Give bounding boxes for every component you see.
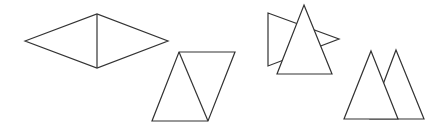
figure-canvas	[0, 0, 445, 131]
rhombus-shape	[25, 14, 168, 68]
adjacent-peaks-shape	[344, 50, 424, 119]
parallelogram-shape	[152, 52, 235, 121]
overlapping-triangles-shape	[268, 5, 339, 74]
